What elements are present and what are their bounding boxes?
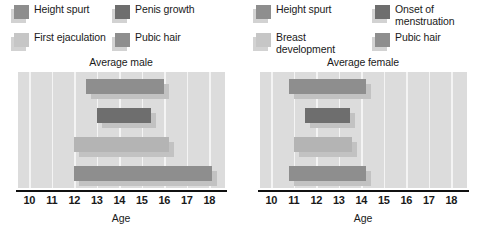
- x-tick-label: 13: [333, 194, 345, 206]
- legend-item-first-ejaculation: First ejaculation: [14, 32, 114, 58]
- chart-title-female: Average female: [242, 56, 484, 68]
- x-tick-label: 16: [400, 194, 412, 206]
- bar-row: [260, 79, 467, 99]
- legend-item-penis-growth: Penis growth: [115, 4, 225, 30]
- legend-label: First ejaculation: [34, 32, 106, 44]
- legend-column-right-female: Onset of menstruation Pubic hair: [375, 4, 481, 60]
- legend-swatch-icon: [115, 5, 130, 19]
- x-tick-label: 17: [181, 194, 193, 206]
- legend-label: Penis growth: [135, 4, 195, 16]
- bar-row: [260, 108, 467, 128]
- legend-swatch-icon: [375, 33, 390, 47]
- legend-label: Breast development: [276, 32, 366, 55]
- x-tick-label: 11: [288, 194, 299, 206]
- legend-label: Height spurt: [276, 4, 331, 16]
- bar-row: [18, 166, 225, 186]
- legend-female: Height spurt Breast development On: [242, 0, 484, 56]
- x-tick-label: 10: [265, 194, 277, 206]
- plot-area-male: [18, 72, 225, 188]
- x-tick-label: 12: [310, 194, 322, 206]
- legend-label: Pubic hair: [135, 32, 181, 44]
- bar-height-spurt: [86, 79, 165, 94]
- legend-item-height-spurt: Height spurt: [14, 4, 114, 30]
- panel-average-male: Height spurt First ejaculation Pen: [0, 0, 242, 243]
- bar-first-ejaculation: [74, 137, 169, 152]
- x-tick-label: 10: [23, 194, 35, 206]
- bar-row: [18, 137, 225, 157]
- x-tick-label: 18: [445, 194, 457, 206]
- legend-item-height-spurt: Height spurt: [256, 4, 366, 30]
- bar-pubic-hair: [289, 166, 366, 181]
- x-tick-label: 16: [158, 194, 170, 206]
- x-tick-label: 14: [355, 194, 367, 206]
- bar-row: [260, 166, 467, 186]
- bar-row: [18, 108, 225, 128]
- legend-column-left-female: Height spurt Breast development: [256, 4, 366, 60]
- x-axis-label-female: Age: [242, 212, 484, 224]
- x-tick-label: 18: [203, 194, 215, 206]
- legend-column-right-male: Penis growth Pubic hair: [115, 4, 225, 60]
- legend-item-pubic-hair: Pubic hair: [115, 32, 225, 58]
- panel-average-female: Height spurt Breast development On: [242, 0, 484, 243]
- chart-title-male: Average male: [0, 56, 242, 68]
- legend-swatch-icon: [375, 5, 390, 19]
- x-axis-line-male: [16, 190, 227, 192]
- plot-area-female: [260, 72, 467, 188]
- bar-height-spurt: [289, 79, 366, 94]
- x-tick-label: 15: [378, 194, 390, 206]
- x-tick-label: 12: [68, 194, 80, 206]
- legend-swatch-icon: [115, 33, 130, 47]
- x-tick-label: 15: [136, 194, 148, 206]
- legend-item-onset-of-menstruation: Onset of menstruation: [375, 4, 481, 30]
- x-axis-ticks-male: 101112131415161718: [18, 194, 225, 208]
- legend-swatch-icon: [14, 33, 29, 47]
- bar-row: [260, 137, 467, 157]
- legend-item-breast-development: Breast development: [256, 32, 366, 58]
- bar-penis-growth: [97, 108, 151, 123]
- legend-swatch-icon: [14, 5, 29, 19]
- x-tick-label: 11: [46, 194, 57, 206]
- x-axis-label-male: Age: [0, 212, 242, 224]
- bar-onset-of-menstruation: [305, 108, 350, 123]
- x-axis-ticks-female: 101112131415161718: [260, 194, 467, 208]
- legend-swatch-icon: [256, 33, 271, 47]
- x-tick-label: 13: [91, 194, 103, 206]
- bar-row: [18, 79, 225, 99]
- bar-breast-development: [294, 137, 353, 152]
- x-tick-label: 14: [113, 194, 125, 206]
- legend-label: Onset of menstruation: [395, 4, 455, 27]
- legend-label: Height spurt: [34, 4, 89, 16]
- bar-pubic-hair: [74, 166, 211, 181]
- legend-column-left-male: Height spurt First ejaculation: [14, 4, 114, 60]
- legend-swatch-icon: [256, 5, 271, 19]
- legend-male: Height spurt First ejaculation Pen: [0, 0, 242, 56]
- legend-item-pubic-hair: Pubic hair: [375, 32, 481, 58]
- legend-label: Pubic hair: [395, 32, 441, 44]
- x-tick-label: 17: [423, 194, 435, 206]
- charts-container: Height spurt First ejaculation Pen: [0, 0, 484, 243]
- x-axis-line-female: [258, 190, 469, 192]
